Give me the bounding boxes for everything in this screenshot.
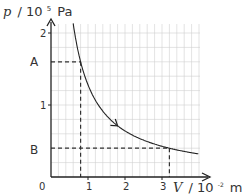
grid <box>51 24 200 177</box>
x-tick-label-2: 2 <box>123 181 129 192</box>
y-axis-unit: / 10 <box>17 4 42 19</box>
x-axis-title: V / 10 -2 m 3 <box>173 175 246 195</box>
point-label-b: B <box>30 143 38 157</box>
x-axis-exp: -2 <box>218 181 224 188</box>
y-axis-title: p / 10 5 Pa <box>3 0 73 19</box>
x-axis-var: V <box>173 180 184 195</box>
y-tick-label-1: 1 <box>40 100 46 111</box>
y-tick-label-2: 2 <box>40 28 46 39</box>
pv-diagram: 0 1 2 3 1 2 A B p / 10 5 Pa V / 10 -2 m … <box>0 0 246 195</box>
ticks <box>48 33 162 180</box>
x-axis-unit: / 10 <box>189 180 214 195</box>
point-label-a: A <box>30 55 39 69</box>
x-tick-label-3: 3 <box>160 181 166 192</box>
isotherm-curve <box>73 23 198 153</box>
origin-label: 0 <box>39 181 45 192</box>
y-axis-exp: 5 <box>47 5 51 13</box>
y-axis-var: p <box>3 4 12 19</box>
y-axis-unit2: Pa <box>57 4 72 19</box>
x-axis-unit2: m <box>230 180 243 195</box>
x-tick-label-1: 1 <box>86 181 92 192</box>
